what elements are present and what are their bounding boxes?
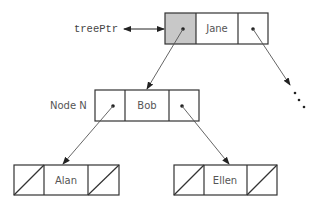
node-jane: Jane — [165, 13, 268, 44]
node-label: Ellen — [213, 175, 237, 186]
tree-pointer-label: treePtr — [74, 23, 118, 35]
tree-diagram: treePtr Jane Node N Bob Ala — [0, 0, 316, 208]
highlighted-cell — [165, 13, 196, 44]
ellipsis-icon — [294, 92, 306, 109]
edge-bob-alan — [63, 106, 113, 164]
node-bob: Bob — [95, 90, 199, 121]
node-ellen: Ellen — [174, 165, 277, 195]
node-label: Jane — [205, 23, 228, 34]
node-label: Bob — [137, 100, 156, 111]
edge-bob-ellen — [182, 106, 229, 164]
edge-jane-right — [253, 29, 290, 85]
node-alan: Alan — [14, 165, 119, 195]
node-caption: Node N — [50, 100, 87, 111]
node-label: Alan — [55, 175, 77, 186]
tree-pointer: treePtr — [74, 23, 164, 35]
